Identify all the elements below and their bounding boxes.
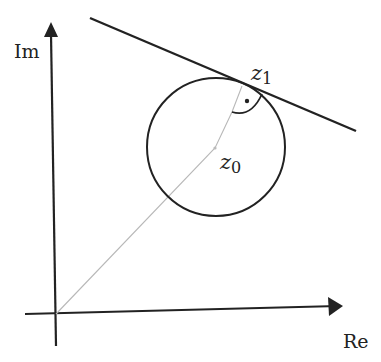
z0-label-subscript: 0 [231, 158, 241, 177]
real-axis-arrow-icon [328, 297, 343, 316]
z0-label-base: z [219, 150, 232, 174]
real-axis-label: Re [343, 330, 369, 352]
imaginary-axis [51, 34, 56, 346]
imaginary-axis-label: Im [14, 40, 40, 62]
right-angle-dot [245, 99, 249, 103]
z1-label: z1 [250, 61, 272, 88]
z1-label-base: z [250, 61, 263, 85]
tangent-line [90, 18, 356, 131]
radius-line [56, 86, 242, 314]
center-point-z0 [213, 146, 216, 149]
z0-label: z0 [219, 150, 241, 177]
imaginary-axis-arrow-icon [44, 22, 58, 37]
z1-label-subscript: 1 [262, 69, 272, 88]
real-axis [25, 306, 338, 314]
right-angle-arc [232, 94, 262, 113]
complex-plane-diagram: Im Re z1 z0 [0, 0, 381, 362]
